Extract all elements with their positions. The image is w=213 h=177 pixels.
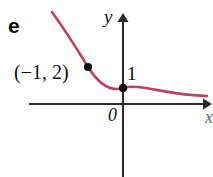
y-axis-label: y [104, 7, 112, 26]
origin-label: 0 [108, 106, 117, 124]
y-axis-arrowhead [118, 13, 129, 22]
x-axis-label: x [205, 108, 213, 126]
y-intercept-value-label: 1 [127, 64, 137, 83]
point-coordinate-label: (−1, 2) [14, 62, 69, 82]
part-label: e [8, 15, 20, 36]
exponential-graph-figure: e (−1, 2) y x 0 1 [0, 0, 213, 177]
point-marker-minus1-2 [84, 63, 92, 71]
point-marker-y-intercept [119, 84, 128, 93]
